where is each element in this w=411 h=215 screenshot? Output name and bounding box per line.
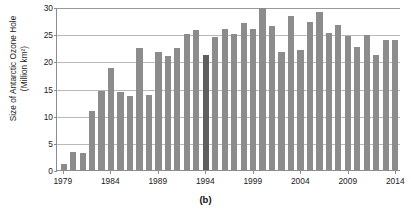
- bar-slot: [296, 8, 305, 170]
- bar: [392, 40, 398, 170]
- x-axis-tick-label: 1999: [243, 176, 262, 186]
- bar: [98, 91, 104, 170]
- x-axis-tick-label: 2004: [291, 176, 310, 186]
- y-axis-title-line2: (Million km²): [19, 0, 30, 158]
- bar-slot: [229, 8, 238, 170]
- bar-slot: [97, 8, 106, 170]
- bar-slot: [362, 8, 371, 170]
- x-axis-tick-label: 1994: [196, 176, 215, 186]
- x-axis-tick-mark: [205, 171, 206, 174]
- bar-slot: [220, 8, 229, 170]
- bar-slot: [305, 8, 314, 170]
- y-axis-tick-label: 0: [48, 166, 53, 176]
- bar: [345, 36, 351, 170]
- bar-slot: [211, 8, 220, 170]
- bar: [231, 34, 237, 170]
- bar-slot: [371, 8, 380, 170]
- bar: [316, 12, 322, 170]
- figure-caption: (b): [0, 194, 411, 205]
- bar: [326, 33, 332, 170]
- bar: [250, 29, 256, 170]
- x-axis-tick-label: 1984: [101, 176, 120, 186]
- bar-slot: [125, 8, 134, 170]
- y-axis-title-line1: Size of Antarctic Ozone Hole: [9, 16, 18, 122]
- bar: [80, 153, 86, 170]
- bar: [307, 22, 313, 170]
- bar: [373, 55, 379, 170]
- ozone-hole-bar-chart: Size of Antarctic Ozone Hole (Million km…: [0, 0, 411, 215]
- bar: [269, 26, 275, 170]
- bar: [288, 16, 294, 170]
- bar-slot: [324, 8, 333, 170]
- bar: [155, 52, 161, 170]
- bar: [146, 95, 152, 170]
- bar: [222, 29, 228, 170]
- x-axis-tick-mark: [300, 171, 301, 174]
- bar-slot: [248, 8, 257, 170]
- bar-slot: [163, 8, 172, 170]
- bar-slot: [106, 8, 115, 170]
- x-axis: 19791984198919941999200420092014: [56, 171, 400, 189]
- y-axis-tick-label: 30: [44, 3, 53, 13]
- bar-slot: [87, 8, 96, 170]
- bar-slot: [381, 8, 390, 170]
- x-axis-tick-label: 2009: [338, 176, 357, 186]
- bar: [117, 92, 123, 170]
- bar: [278, 52, 284, 170]
- bar: [136, 48, 142, 170]
- x-axis-tick-mark: [63, 171, 64, 174]
- bar-series: [57, 8, 400, 170]
- bar-slot: [277, 8, 286, 170]
- y-axis-tick-label: 20: [44, 57, 53, 67]
- x-axis-tick-mark: [158, 171, 159, 174]
- bar-slot: [173, 8, 182, 170]
- y-axis-title: Size of Antarctic Ozone Hole (Million km…: [9, 0, 30, 158]
- x-axis-tick-label: 1989: [148, 176, 167, 186]
- bar-slot: [78, 8, 87, 170]
- bar-slot: [315, 8, 324, 170]
- y-axis-tick-label: 25: [44, 30, 53, 40]
- bar: [241, 23, 247, 170]
- bar-slot: [239, 8, 248, 170]
- bar-slot: [390, 8, 399, 170]
- bar: [212, 37, 218, 170]
- bar-slot: [154, 8, 163, 170]
- bar-slot: [201, 8, 210, 170]
- bar-slot: [353, 8, 362, 170]
- bar-slot: [116, 8, 125, 170]
- bar: [61, 164, 67, 170]
- bar: [193, 30, 199, 170]
- bar-slot: [192, 8, 201, 170]
- bar-slot: [144, 8, 153, 170]
- x-axis-tick-mark: [348, 171, 349, 174]
- bar: [89, 111, 95, 170]
- bar: [383, 40, 389, 170]
- x-axis-tick-label: 2014: [386, 176, 405, 186]
- y-axis-tick-label: 10: [44, 112, 53, 122]
- x-axis-tick-mark: [395, 171, 396, 174]
- x-axis-tick-mark: [110, 171, 111, 174]
- y-axis-tick-label: 5: [48, 139, 53, 149]
- bar-slot: [343, 8, 352, 170]
- y-axis-tick-label: 15: [44, 85, 53, 95]
- x-axis-tick-label: 1979: [53, 176, 72, 186]
- bar-slot: [135, 8, 144, 170]
- bar: [354, 47, 360, 170]
- bar-slot: [59, 8, 68, 170]
- bar: [335, 25, 341, 170]
- bar: [364, 35, 370, 170]
- bar-slot: [68, 8, 77, 170]
- bar-slot: [267, 8, 276, 170]
- bar: [165, 56, 171, 170]
- bar: [127, 96, 133, 170]
- plot-area: 051015202530: [56, 8, 400, 171]
- bar: [259, 8, 265, 170]
- bar-slot: [334, 8, 343, 170]
- bar: [174, 48, 180, 170]
- x-axis-tick-mark: [253, 171, 254, 174]
- bar-slot: [258, 8, 267, 170]
- bar: [70, 152, 76, 170]
- bar: [184, 34, 190, 170]
- bar: [108, 68, 114, 170]
- bar-slot: [286, 8, 295, 170]
